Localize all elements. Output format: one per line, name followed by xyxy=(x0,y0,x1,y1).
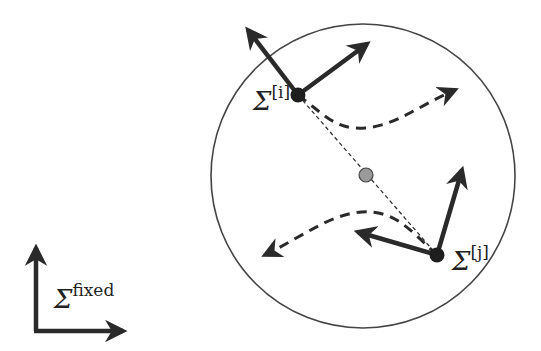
frame-i-label: Σ[i] xyxy=(252,82,290,116)
frame-j-axis-1 xyxy=(437,170,462,255)
frame-j-axis-2 xyxy=(358,232,437,255)
diagram-canvas: Σ[i] Σ[j] Σfixed xyxy=(0,0,541,351)
center-point xyxy=(359,168,373,182)
frame-j-origin xyxy=(430,248,445,263)
frame-fixed-label: Σfixed xyxy=(53,280,114,314)
frames-diagram: Σ[i] Σ[j] Σfixed xyxy=(0,0,541,351)
frame-j xyxy=(358,170,462,263)
frame-j-label: Σ[j] xyxy=(451,242,489,276)
frame-i-origin xyxy=(291,88,306,103)
frame-i-axis-2 xyxy=(298,44,367,95)
